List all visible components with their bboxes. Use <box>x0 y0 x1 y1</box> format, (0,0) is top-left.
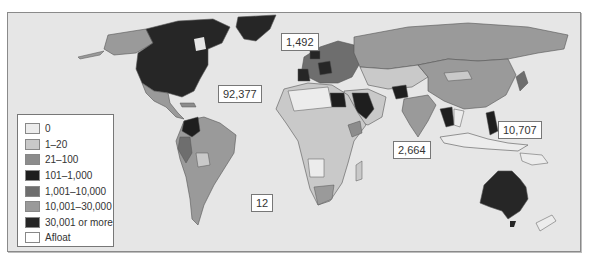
region-south-america <box>176 117 236 225</box>
callout-value: 10,707 <box>503 124 537 136</box>
legend-swatch <box>25 170 40 181</box>
region-philippines <box>486 111 498 135</box>
region-central-asia <box>360 65 428 89</box>
region-afghanistan <box>392 85 408 99</box>
legend-label: 0 <box>45 123 51 134</box>
callout-greenland-north-atlantic: 1,492 <box>281 33 319 51</box>
legend-item: 21–100 <box>25 152 113 168</box>
region-greenland <box>236 15 276 41</box>
callout-value: 12 <box>256 197 268 209</box>
region-aleutians <box>78 51 104 59</box>
legend-label: 101–1,000 <box>45 170 92 181</box>
legend-label: 21–100 <box>45 154 78 165</box>
region-north-africa <box>288 87 332 111</box>
legend-item: 30,001 or more <box>25 215 113 231</box>
map-legend: 0 1–20 21–100 101–1,000 1,001–10,000 10,… <box>17 114 114 247</box>
legend-item: Afloat <box>25 230 113 246</box>
callout-indian-ocean: 2,664 <box>393 141 431 159</box>
legend-swatch <box>25 139 40 150</box>
callout-south-atlantic: 12 <box>251 194 273 212</box>
callout-value: 92,377 <box>223 88 257 100</box>
legend-item: 1–20 <box>25 137 113 153</box>
legend-swatch <box>25 232 40 243</box>
legend-label: 1–20 <box>45 139 67 150</box>
legend-swatch <box>25 186 40 197</box>
region-usa-canada <box>136 19 230 97</box>
legend-label: 1,001–10,000 <box>45 186 106 197</box>
legend-swatch <box>25 201 40 212</box>
legend-item: 0 <box>25 121 113 137</box>
region-australia <box>480 171 528 219</box>
legend-item: 1,001–10,000 <box>25 183 113 199</box>
map-frame: 1,492 92,377 2,664 10,707 12 0 1–20 21–1… <box>7 12 581 252</box>
region-egypt <box>330 93 346 107</box>
legend-label: Afloat <box>45 232 71 243</box>
legend-item: 10,001–30,000 <box>25 199 113 215</box>
legend-label: 30,001 or more <box>45 217 113 228</box>
callout-value: 1,492 <box>286 36 314 48</box>
legend-label: 10,001–30,000 <box>45 201 112 212</box>
legend-item: 101–1,000 <box>25 168 113 184</box>
legend-swatch <box>25 154 40 165</box>
callout-philippines-pacific: 10,707 <box>498 121 542 139</box>
callout-north-america: 92,377 <box>218 85 262 103</box>
region-india <box>402 95 436 137</box>
legend-swatch <box>25 217 40 228</box>
region-bolivia <box>196 153 210 167</box>
legend-swatch <box>25 123 40 134</box>
callout-value: 2,664 <box>398 144 426 156</box>
region-thailand <box>440 107 454 127</box>
